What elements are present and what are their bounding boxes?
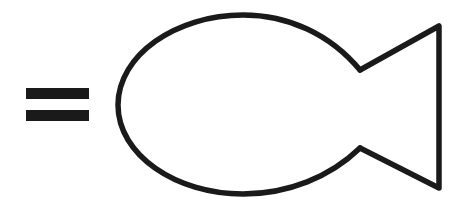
fish-equals-figure [0,0,462,202]
fish-body-path [118,15,360,194]
equals-upper-bar [26,88,89,99]
fish-tail-path [360,26,439,188]
figure-canvas [0,0,462,202]
equals-lower-bar [26,110,89,121]
